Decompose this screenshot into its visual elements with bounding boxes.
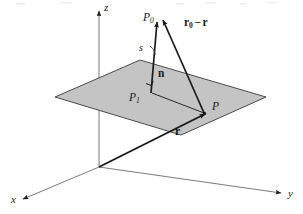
distance-s-label: s bbox=[139, 43, 143, 53]
point-p-label: P bbox=[212, 101, 219, 113]
point-p1-letter: P bbox=[129, 91, 136, 103]
r0-subscript: 0 bbox=[189, 21, 193, 30]
y-axis bbox=[99, 167, 281, 193]
plane-distance-figure: z x y P0 P1 P n r r0−r s bbox=[0, 0, 303, 214]
position-vector-label: r bbox=[175, 126, 180, 138]
r-letter: r bbox=[202, 16, 207, 28]
y-axis-label: y bbox=[288, 188, 293, 199]
point-p0-subscript: 0 bbox=[150, 16, 154, 25]
scan-artifacts bbox=[16, 2, 277, 5]
z-axis-label: z bbox=[104, 2, 108, 13]
point-p1-subscript: 1 bbox=[136, 96, 140, 105]
point-p-dot bbox=[203, 112, 206, 115]
point-p0-letter: P bbox=[143, 11, 150, 23]
figure-canvas bbox=[0, 0, 303, 214]
point-p1-label: P1 bbox=[129, 92, 140, 104]
point-p0-label: P0 bbox=[143, 12, 154, 24]
vector-r0-minus-r-label: r0−r bbox=[184, 17, 208, 29]
x-axis-label: x bbox=[11, 194, 16, 205]
x-axis bbox=[23, 167, 99, 199]
normal-vector-label: n bbox=[158, 68, 164, 80]
